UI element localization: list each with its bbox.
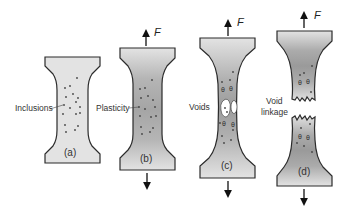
panel-b-label: (b) <box>140 153 152 164</box>
svg-text:θ: θ <box>221 86 225 93</box>
svg-text:θ: θ <box>298 133 302 140</box>
panel-c-label: (c) <box>221 160 233 171</box>
void-linkage-label-line1: Void <box>266 96 283 106</box>
force-label-c: F <box>237 16 245 28</box>
svg-text:θ: θ <box>229 85 233 92</box>
svg-text:θ: θ <box>231 121 235 128</box>
specimen-c: F θθ θθ Voids (c) <box>189 16 255 194</box>
svg-text:θ: θ <box>306 78 310 85</box>
panel-a-label: (a) <box>64 147 76 158</box>
voids-label: Voids <box>189 102 210 112</box>
svg-text:θ: θ <box>222 120 226 127</box>
panel-d-label: (d) <box>298 166 310 177</box>
svg-text:θ: θ <box>306 134 310 141</box>
specimen-b: F Plasticity (b) <box>96 26 175 186</box>
force-label-d: F <box>314 9 322 21</box>
force-label-b: F <box>154 26 162 38</box>
svg-text:θ: θ <box>298 79 302 86</box>
specimen-a: Inclusions (a) <box>15 57 100 163</box>
plasticity-label: Plasticity <box>96 103 130 113</box>
void-linkage-label-line2: linkage <box>261 107 288 117</box>
ductile-fracture-diagram: Inclusions (a) F Plasticity (b) F θθ <box>0 0 353 217</box>
specimen-d-upper <box>277 31 332 101</box>
specimen-d: F θθ θθ Void linkage (d) <box>261 9 332 202</box>
inclusions-label: Inclusions <box>15 103 53 113</box>
